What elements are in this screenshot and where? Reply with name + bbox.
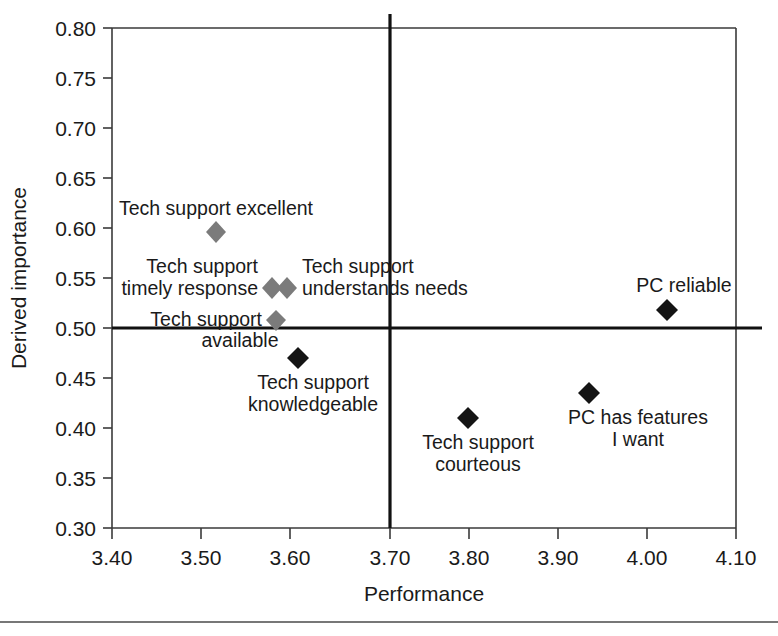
x-tick-label-3.50: 3.50 [181,546,222,569]
data-point-pc-reliable[interactable] [656,299,678,321]
y-tick-label-0.35: 0.35 [55,467,96,490]
x-tick-label-4.00: 4.00 [627,546,668,569]
y-tick-label-0.70: 0.70 [55,117,96,140]
y-tick-label-0.60: 0.60 [55,217,96,240]
label-tech-support-understands-needs-line2: understands needs [302,277,468,299]
x-tick-label-4.10: 4.10 [716,546,757,569]
label-tech-support-understands-needs-line1: Tech support [302,255,414,277]
y-tick-label-0.55: 0.55 [55,267,96,290]
label-pc-reliable-line1: PC reliable [636,274,731,296]
y-axis-title: Derived importance [7,187,30,369]
label-tech-support-courteous-line1: Tech support [422,431,534,453]
y-tick-label-0.45: 0.45 [55,367,96,390]
x-axis-title: Performance [364,582,484,605]
y-tick-label-0.40: 0.40 [55,417,96,440]
x-tick-label-3.90: 3.90 [538,546,579,569]
y-tick-label-0.65: 0.65 [55,167,96,190]
label-tech-support-available-line2: available [202,329,279,351]
data-point-pc-has-features-i-want[interactable] [578,382,600,404]
label-pc-has-features-i-want-line1: PC has features [568,406,708,428]
data-point-tech-support-knowledgeable[interactable] [287,347,309,369]
x-tick-label-3.70: 3.70 [370,546,411,569]
x-tick-label-3.40: 3.40 [92,546,133,569]
data-point-tech-support-excellent[interactable] [206,221,226,243]
label-tech-support-excellent-line1: Tech support excellent [119,197,314,219]
chart-figure: 0.80 0.75 0.70 0.65 0.60 0.55 0.50 0.45 … [0,0,778,636]
data-point-tech-support-courteous[interactable] [457,407,479,429]
y-tick-label-0.80: 0.80 [55,17,96,40]
label-tech-support-knowledgeable-line2: knowledgeable [248,393,378,415]
scatter-plot-canvas: 0.80 0.75 0.70 0.65 0.60 0.55 0.50 0.45 … [0,0,778,636]
label-tech-support-knowledgeable-line1: Tech support [257,371,369,393]
y-tick-label-0.50: 0.50 [55,317,96,340]
y-tick-label-0.75: 0.75 [55,67,96,90]
y-tick-label-0.30: 0.30 [55,517,96,540]
label-pc-has-features-i-want-line2: I want [612,428,665,450]
label-tech-support-timely-response-line2: timely response [121,277,258,299]
x-tick-label-3.80: 3.80 [449,546,490,569]
label-tech-support-timely-response-line1: Tech support [146,255,258,277]
label-tech-support-courteous-line2: courteous [435,453,521,475]
data-point-tech-support-understands-needs[interactable] [277,277,297,299]
x-tick-label-3.60: 3.60 [270,546,311,569]
label-tech-support-available-line1: Tech support [150,308,262,330]
